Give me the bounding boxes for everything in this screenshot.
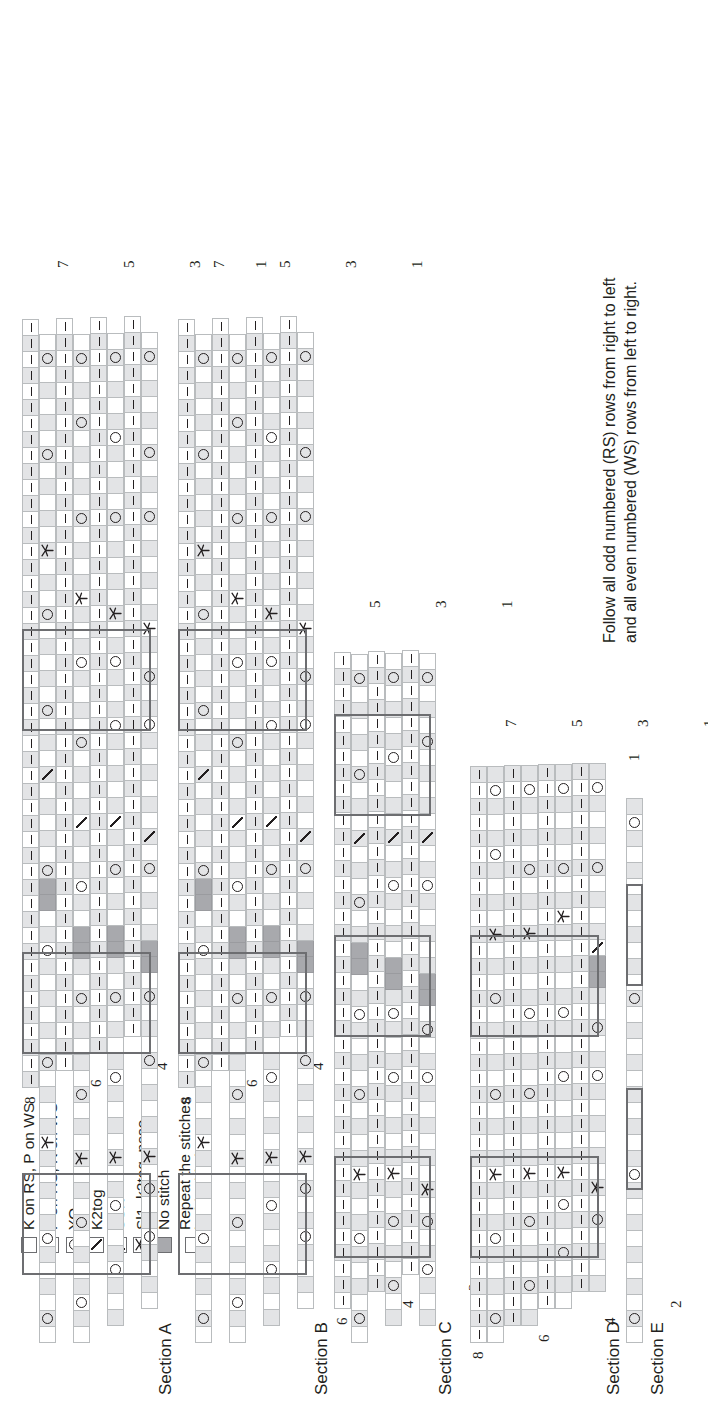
chart-cell bbox=[487, 1166, 504, 1183]
stitch-symbol bbox=[74, 511, 89, 526]
chart-cell bbox=[56, 782, 73, 799]
stitch-symbol bbox=[179, 592, 194, 607]
stitch-symbol bbox=[23, 352, 38, 367]
chart-cell bbox=[90, 605, 107, 622]
stitch-symbol bbox=[627, 1167, 642, 1182]
stitch-symbol bbox=[57, 511, 72, 526]
stitch-symbol bbox=[142, 1229, 157, 1244]
chart-cell bbox=[555, 1244, 572, 1261]
chart-cell bbox=[626, 1198, 643, 1215]
stitch-symbol bbox=[590, 1020, 605, 1035]
chart-cell bbox=[22, 543, 39, 560]
chart-cell bbox=[402, 1178, 419, 1195]
chart-cell bbox=[229, 702, 246, 719]
chart-cell bbox=[297, 1148, 314, 1165]
stitch-symbol bbox=[247, 446, 262, 461]
stitch-symbol bbox=[125, 333, 140, 348]
chart-cell bbox=[368, 1275, 385, 1292]
chart-cell bbox=[402, 762, 419, 779]
chart-cell bbox=[385, 893, 402, 910]
chart-cell bbox=[263, 365, 280, 382]
chart-cell bbox=[107, 749, 124, 766]
chart-cell bbox=[246, 909, 263, 926]
chart-cell bbox=[39, 350, 56, 367]
stitch-symbol bbox=[23, 528, 38, 543]
chart-cell bbox=[212, 606, 229, 623]
chart-cell bbox=[504, 925, 521, 942]
chart-cell bbox=[229, 398, 246, 415]
chart-cell bbox=[334, 652, 351, 669]
row-number: 5 bbox=[121, 261, 138, 269]
stitch-symbol bbox=[627, 1311, 642, 1326]
stitch-symbol bbox=[57, 367, 72, 382]
chart-cell bbox=[470, 1198, 487, 1215]
stitch-symbol bbox=[369, 652, 384, 667]
chart-cell bbox=[504, 861, 521, 878]
chart-cell bbox=[470, 1166, 487, 1183]
stitch-symbol bbox=[505, 1230, 520, 1245]
chart-cell bbox=[470, 814, 487, 831]
stitch-symbol bbox=[556, 781, 571, 796]
stitch-symbol bbox=[403, 1019, 418, 1034]
chart-cell bbox=[124, 844, 141, 861]
chart-cell bbox=[90, 909, 107, 926]
chart-cell bbox=[195, 1038, 212, 1055]
chart-cell bbox=[141, 588, 158, 605]
chart-cell bbox=[419, 893, 436, 910]
chart-cell bbox=[141, 1164, 158, 1181]
chart-cell bbox=[263, 1133, 280, 1150]
stitch-symbol bbox=[505, 1102, 520, 1117]
chart-cell bbox=[280, 588, 297, 605]
chart-cell bbox=[178, 687, 195, 704]
chart-cell bbox=[90, 701, 107, 718]
stitch-symbol bbox=[125, 813, 140, 828]
chart-cell bbox=[263, 653, 280, 670]
chart-cell bbox=[280, 620, 297, 637]
chart-cell bbox=[351, 1262, 368, 1279]
stitch-symbol bbox=[556, 1005, 571, 1020]
stitch-symbol bbox=[142, 1181, 157, 1196]
chart-cell bbox=[385, 1261, 402, 1278]
stitch-symbol bbox=[125, 605, 140, 620]
stitch-symbol bbox=[23, 784, 38, 799]
chart-cell bbox=[39, 334, 56, 351]
stitch-symbol bbox=[403, 1099, 418, 1114]
chart-cell bbox=[229, 654, 246, 671]
chart-cell bbox=[141, 1276, 158, 1293]
stitch-symbol bbox=[505, 1278, 520, 1293]
stitch-symbol bbox=[505, 990, 520, 1005]
chart-cell bbox=[107, 1165, 124, 1182]
chart-cell bbox=[504, 1037, 521, 1054]
row-number: 2 bbox=[668, 1301, 685, 1309]
stitch-symbol bbox=[281, 893, 296, 908]
stitch-symbol bbox=[125, 829, 140, 844]
row-number: 3 bbox=[635, 720, 652, 728]
chart-cell bbox=[280, 876, 297, 893]
stitch-symbol bbox=[213, 319, 228, 334]
stitch-symbol bbox=[247, 942, 262, 957]
chart-cell bbox=[538, 924, 555, 941]
stitch-symbol bbox=[213, 911, 228, 926]
chart-cell bbox=[141, 924, 158, 941]
chart-cell bbox=[246, 621, 263, 638]
chart-cell bbox=[470, 878, 487, 895]
chart-cell bbox=[419, 685, 436, 702]
stitch-symbol bbox=[505, 1246, 520, 1261]
chart-cell bbox=[73, 1246, 90, 1263]
stitch-symbol bbox=[539, 1021, 554, 1036]
stitch-symbol bbox=[335, 797, 350, 812]
chart-cell bbox=[56, 494, 73, 511]
chart-cell bbox=[39, 558, 56, 575]
chart-cell bbox=[263, 557, 280, 574]
stitch-symbol bbox=[57, 575, 72, 590]
chart-cell bbox=[246, 1005, 263, 1022]
stitch-symbol bbox=[125, 525, 140, 540]
chart-cell bbox=[73, 606, 90, 623]
stitch-symbol bbox=[403, 715, 418, 730]
stitch-symbol bbox=[40, 703, 55, 718]
chart-cell bbox=[385, 877, 402, 894]
chart-cell bbox=[402, 842, 419, 859]
stitch-symbol bbox=[213, 1039, 228, 1054]
stitch-symbol bbox=[213, 687, 228, 702]
stitch-symbol bbox=[57, 767, 72, 782]
